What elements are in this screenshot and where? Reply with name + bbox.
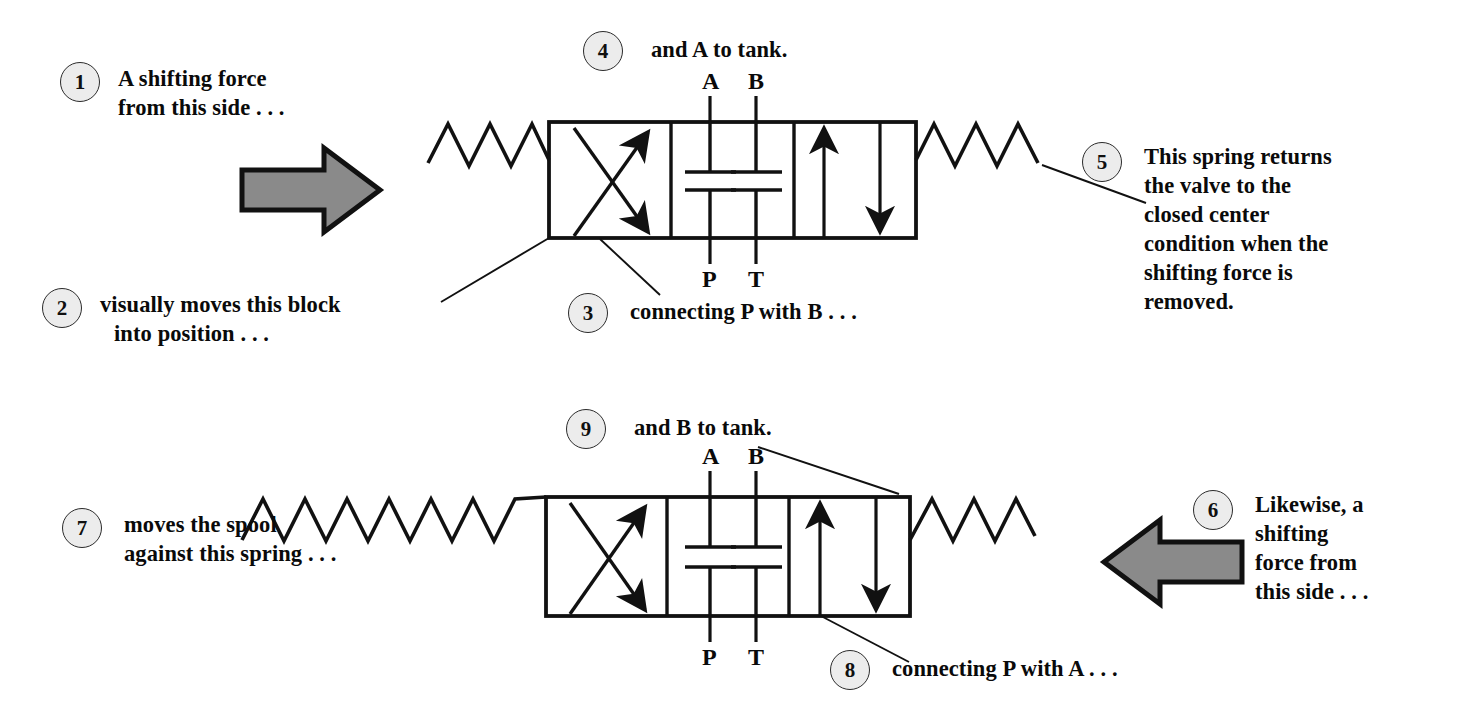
lower-port-label-p: P xyxy=(702,644,717,671)
callout-5-line-1: the valve to the xyxy=(1144,171,1332,200)
callout-1-line-1: from this side . . . xyxy=(118,93,285,122)
upper-cross-path-up xyxy=(574,132,648,236)
callout-6-line-1: shifting xyxy=(1255,519,1368,548)
callout-2-line-0: visually moves this block xyxy=(100,290,341,319)
callout-5-line-2: closed center xyxy=(1144,200,1332,229)
callout-8-badge: 8 xyxy=(830,650,870,690)
callout-3-line-0: connecting P with B . . . xyxy=(630,297,857,326)
upper-leader-3 xyxy=(600,239,660,295)
callout-2-badge: 2 xyxy=(42,288,82,328)
diagram-page: A B P T A B P T 1 A shifting force from … xyxy=(0,0,1481,721)
callout-1-text: A shifting force from this side . . . xyxy=(118,64,285,122)
callout-5-line-0: This spring returns xyxy=(1144,142,1332,171)
callout-2-text: visually moves this block into position … xyxy=(100,290,341,348)
upper-left-spring xyxy=(428,124,549,166)
callout-1-line-0: A shifting force xyxy=(118,64,285,93)
callout-7-line-1: against this spring . . . xyxy=(124,539,337,568)
callout-7-line-0: moves the spool xyxy=(124,510,337,539)
lower-valve-group xyxy=(242,447,1035,662)
callout-2: 2 visually moves this block into positio… xyxy=(42,288,341,348)
callout-5-text: This spring returns the valve to the clo… xyxy=(1144,142,1332,316)
callout-6-line-2: force from xyxy=(1255,548,1368,577)
callout-9: 9 and B to tank. xyxy=(566,409,772,449)
callout-9-text: and B to tank. xyxy=(634,413,772,442)
callout-7-badge: 7 xyxy=(62,508,102,548)
lower-cross-path-up xyxy=(570,507,645,614)
callout-1: 1 A shifting force from this side . . . xyxy=(60,62,285,122)
callout-7: 7 moves the spool against this spring . … xyxy=(62,508,337,568)
callout-8: 8 connecting P with A . . . xyxy=(830,650,1118,690)
callout-5-line-3: condition when the xyxy=(1144,229,1332,258)
upper-port-label-b: B xyxy=(748,68,764,95)
callout-7-text: moves the spool against this spring . . … xyxy=(124,510,337,568)
callout-4: 4 and A to tank. xyxy=(583,31,787,71)
upper-port-label-t: T xyxy=(748,266,764,293)
upper-right-spring xyxy=(916,124,1038,166)
lower-port-label-t: T xyxy=(748,644,764,671)
callout-3-badge: 3 xyxy=(568,293,608,333)
upper-valve-body xyxy=(549,122,916,238)
callout-3: 3 connecting P with B . . . xyxy=(568,293,857,333)
callout-4-line-0: and A to tank. xyxy=(651,35,787,64)
lower-valve-body xyxy=(546,497,910,616)
upper-port-label-a: A xyxy=(702,68,719,95)
callout-6: 6 Likewise, a shifting force from this s… xyxy=(1193,490,1368,606)
callout-6-line-3: this side . . . xyxy=(1255,577,1368,606)
callout-5: 5 This spring returns the valve to the c… xyxy=(1082,142,1332,316)
lower-leader-9 xyxy=(758,447,899,494)
callout-8-line-0: connecting P with A . . . xyxy=(892,654,1118,683)
upper-port-label-p: P xyxy=(702,266,717,293)
callout-2-line-1: into position . . . xyxy=(114,319,341,348)
lower-right-spring xyxy=(910,499,1035,541)
callout-8-text: connecting P with A . . . xyxy=(892,654,1118,683)
upper-valve-group xyxy=(428,96,1146,302)
callout-6-badge: 6 xyxy=(1193,490,1233,530)
upper-cross-path-down xyxy=(574,128,648,232)
callout-3-text: connecting P with B . . . xyxy=(630,297,857,326)
callout-4-text: and A to tank. xyxy=(651,35,787,64)
callout-5-line-5: removed. xyxy=(1144,287,1332,316)
callout-4-badge: 4 xyxy=(583,31,623,71)
callout-6-line-0: Likewise, a xyxy=(1255,490,1368,519)
callout-6-text: Likewise, a shifting force from this sid… xyxy=(1255,490,1368,606)
callout-9-line-0: and B to tank. xyxy=(634,413,772,442)
callout-1-badge: 1 xyxy=(60,62,100,102)
callout-5-line-4: shifting force is xyxy=(1144,258,1332,287)
callout-9-badge: 9 xyxy=(566,409,606,449)
callout-5-badge: 5 xyxy=(1082,142,1122,182)
upper-leader-2 xyxy=(441,238,549,302)
lower-cross-path-down xyxy=(570,503,645,610)
shifting-force-arrow-right xyxy=(236,140,386,240)
